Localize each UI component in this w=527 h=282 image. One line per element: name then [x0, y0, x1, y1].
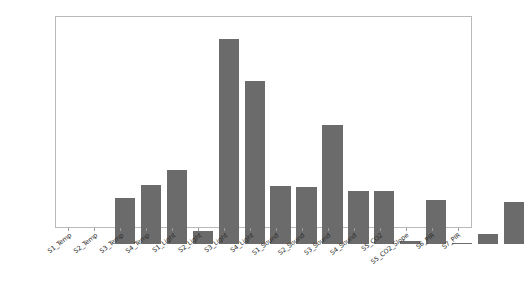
bar — [245, 81, 265, 244]
x-axis-tick-mark — [380, 228, 381, 231]
x-axis-tick-mark — [172, 228, 173, 231]
x-axis-tick-mark — [302, 228, 303, 231]
x-axis-tick-mark — [354, 228, 355, 231]
bar — [322, 125, 342, 244]
x-axis-tick-label: S6_PIR — [415, 232, 436, 251]
x-axis-tick-label: S3_Sound — [304, 232, 333, 257]
x-axis-tick-label: S7_PIR — [441, 232, 462, 251]
bar — [219, 39, 239, 244]
y-axis: 0.0000.0250.0500.0750.1000.1250.1500.175… — [0, 0, 55, 282]
x-axis-tick-label: S1_Light — [151, 232, 177, 254]
x-axis-tick-label: S4_Temp — [124, 232, 151, 255]
x-axis-tick-mark — [120, 228, 121, 231]
x-axis: S1_TempS2_TempS3_TempS4_TempS1_LightS2_L… — [56, 228, 471, 282]
x-axis-tick-mark — [328, 228, 329, 231]
x-axis-tick-label: S4_Sound — [329, 232, 358, 257]
x-axis-tick-label: S2_Light — [177, 232, 203, 254]
x-axis-tick-mark — [146, 228, 147, 231]
bar-series — [112, 34, 527, 244]
x-axis-tick-label: S1_Sound — [252, 232, 281, 257]
x-axis-tick-label: S2_Temp — [73, 232, 100, 255]
plot-area — [55, 16, 472, 228]
x-axis-tick-mark — [276, 228, 277, 231]
x-axis-tick-label: S3_Temp — [98, 232, 125, 255]
bar — [478, 234, 498, 244]
x-axis-tick-mark — [94, 228, 95, 231]
x-axis-tick-label: S3_Light — [203, 232, 229, 254]
x-axis-tick-mark — [198, 228, 199, 231]
bar — [504, 202, 524, 244]
x-axis-tick-label: S2_Sound — [278, 232, 307, 257]
